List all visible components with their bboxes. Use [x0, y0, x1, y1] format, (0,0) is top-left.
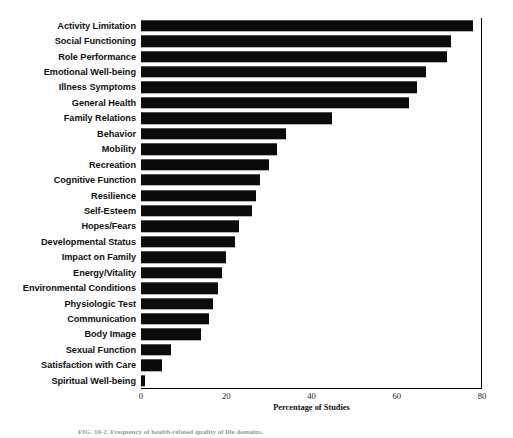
bar-row: Energy/Vitality	[141, 265, 481, 280]
bar	[141, 344, 171, 355]
category-label: Illness Symptoms	[59, 82, 136, 92]
x-tick-label: 40	[307, 391, 316, 401]
bar-row: General Health	[141, 95, 481, 110]
bar	[141, 298, 213, 309]
x-tick-label: 60	[392, 391, 401, 401]
bar-row: Social Functioning	[141, 33, 481, 48]
bar-row: Impact on Family	[141, 250, 481, 265]
category-label: Environmental Conditions	[23, 283, 136, 293]
bar	[141, 35, 451, 46]
category-label: Sexual Function	[66, 345, 136, 355]
category-label: Cognitive Function	[54, 175, 136, 185]
bar-row: Communication	[141, 311, 481, 326]
bar-row: Physiologic Test	[141, 296, 481, 311]
bar	[141, 360, 162, 371]
category-label: Emotional Well-being	[44, 67, 136, 77]
category-label: Body Image	[84, 329, 136, 339]
bar	[141, 282, 218, 293]
figure-container: Activity LimitationSocial FunctioningRol…	[0, 0, 513, 438]
category-label: Hopes/Fears	[81, 221, 136, 231]
bar-row: Role Performance	[141, 49, 481, 64]
bar	[141, 113, 332, 124]
category-label: General Health	[72, 98, 136, 108]
bar-row: Mobility	[141, 142, 481, 157]
bar	[141, 267, 222, 278]
category-label: Family Relations	[64, 113, 136, 123]
bar	[141, 128, 286, 139]
x-axis-label: Percentage of Studies	[141, 403, 482, 412]
category-label: Spiritual Well-being	[51, 376, 136, 386]
bar-row: Body Image	[141, 327, 481, 342]
bar	[141, 236, 235, 247]
x-tick-label: 80	[478, 391, 487, 401]
chart-plot-area: Activity LimitationSocial FunctioningRol…	[141, 18, 482, 389]
bar	[141, 375, 145, 386]
bar	[141, 221, 239, 232]
bar	[141, 313, 209, 324]
bar-row: Developmental Status	[141, 234, 481, 249]
category-label: Role Performance	[58, 52, 136, 62]
bar	[141, 51, 447, 62]
bar-row: Self-Esteem	[141, 203, 481, 218]
figure-caption: FIG. 10-2. Frequency of health-related q…	[78, 428, 408, 437]
bar-row: Spiritual Well-being	[141, 373, 481, 388]
category-label: Physiologic Test	[64, 299, 136, 309]
bar	[141, 190, 256, 201]
bar	[141, 205, 252, 216]
bar-row: Emotional Well-being	[141, 64, 481, 79]
bar-row: Behavior	[141, 126, 481, 141]
category-label: Impact on Family	[62, 252, 136, 262]
bar-row: Sexual Function	[141, 342, 481, 357]
bar-row: Cognitive Function	[141, 172, 481, 187]
bar	[141, 252, 226, 263]
bar-rows: Activity LimitationSocial FunctioningRol…	[141, 18, 481, 389]
bar-row: Recreation	[141, 157, 481, 172]
bar-row: Illness Symptoms	[141, 80, 481, 95]
bar-row: Activity Limitation	[141, 18, 481, 33]
bar	[141, 329, 201, 340]
bar	[141, 82, 417, 93]
bar	[141, 159, 269, 170]
bar	[141, 144, 277, 155]
category-label: Self-Esteem	[84, 206, 136, 216]
category-label: Behavior	[97, 129, 136, 139]
category-label: Developmental Status	[41, 237, 136, 247]
category-label: Satisfaction with Care	[41, 360, 136, 370]
bar-row: Family Relations	[141, 111, 481, 126]
bar-row: Resilience	[141, 188, 481, 203]
bar-row: Hopes/Fears	[141, 219, 481, 234]
bar	[141, 66, 426, 77]
category-label: Communication	[67, 314, 136, 324]
bar	[141, 174, 260, 185]
category-label: Mobility	[102, 144, 136, 154]
category-label: Activity Limitation	[57, 21, 136, 31]
category-label: Resilience	[91, 191, 136, 201]
bar-row: Satisfaction with Care	[141, 358, 481, 373]
bar	[141, 20, 473, 31]
bar-row: Environmental Conditions	[141, 280, 481, 295]
category-label: Social Functioning	[55, 36, 136, 46]
bar	[141, 97, 409, 108]
x-tick-label: 0	[139, 391, 143, 401]
category-label: Energy/Vitality	[73, 268, 136, 278]
x-tick-label: 20	[222, 391, 231, 401]
category-label: Recreation	[89, 160, 136, 170]
x-axis-ticks: 020406080	[141, 389, 482, 403]
